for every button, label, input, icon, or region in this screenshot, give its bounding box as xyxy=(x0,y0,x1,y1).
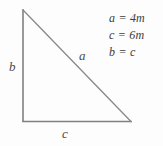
equation-list: a = 4m c = 6m b = c xyxy=(109,12,145,59)
geometry-figure: b a c a = 4m c = 6m b = c xyxy=(0,0,163,146)
side-label-c: c xyxy=(62,127,68,140)
side-label-a: a xyxy=(79,49,86,62)
equation-line-c: c = 6m xyxy=(109,29,145,43)
side-label-b: b xyxy=(9,60,16,73)
equation-line-a: a = 4m xyxy=(109,12,145,26)
equation-line-b: b = c xyxy=(109,46,145,60)
